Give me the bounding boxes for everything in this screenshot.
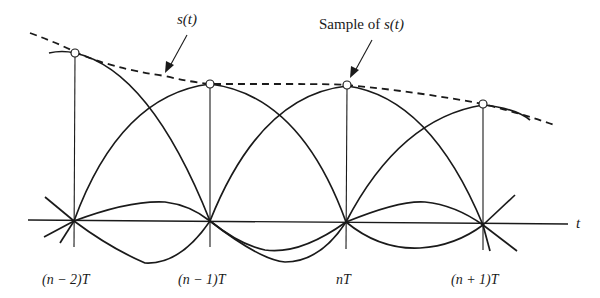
signal-arrow-shaft [170, 35, 187, 66]
tick-label-n: nT [336, 272, 352, 287]
sample-arrow-shaft [355, 40, 372, 71]
pulse-n [74, 86, 517, 251]
tick-label-n-minus-1: (n − 1)T [178, 272, 227, 288]
sampling-reconstruction-diagram: t s(t) Sample of s [0, 0, 600, 298]
sample-point-n-minus-1 [206, 80, 214, 88]
sample-label-prefix: Sample of [319, 16, 384, 32]
sample-label-signal: s(t) [384, 16, 404, 33]
sample-point-n-minus-2 [71, 49, 79, 57]
sample-point-n [343, 81, 351, 89]
signal-curve-s-of-t [30, 33, 557, 126]
tick-label-n-minus-2: (n − 2)T [42, 272, 91, 288]
pulse-n-minus-1 [60, 84, 483, 263]
sample-point-n-plus-1 [479, 100, 487, 108]
sample-label: Sample of s(t) [319, 16, 404, 33]
sample-line-n [346, 88, 347, 249]
pulse-n-plus-1 [44, 105, 530, 251]
signal-arrow-head-icon [165, 61, 174, 73]
sample-arrow-head-icon [350, 66, 359, 78]
pulse-n-minus-2 [45, 52, 346, 263]
signal-label: s(t) [177, 11, 197, 28]
tick-label-n-plus-1: (n + 1)T [451, 272, 500, 288]
axis-label-t: t [576, 215, 581, 231]
